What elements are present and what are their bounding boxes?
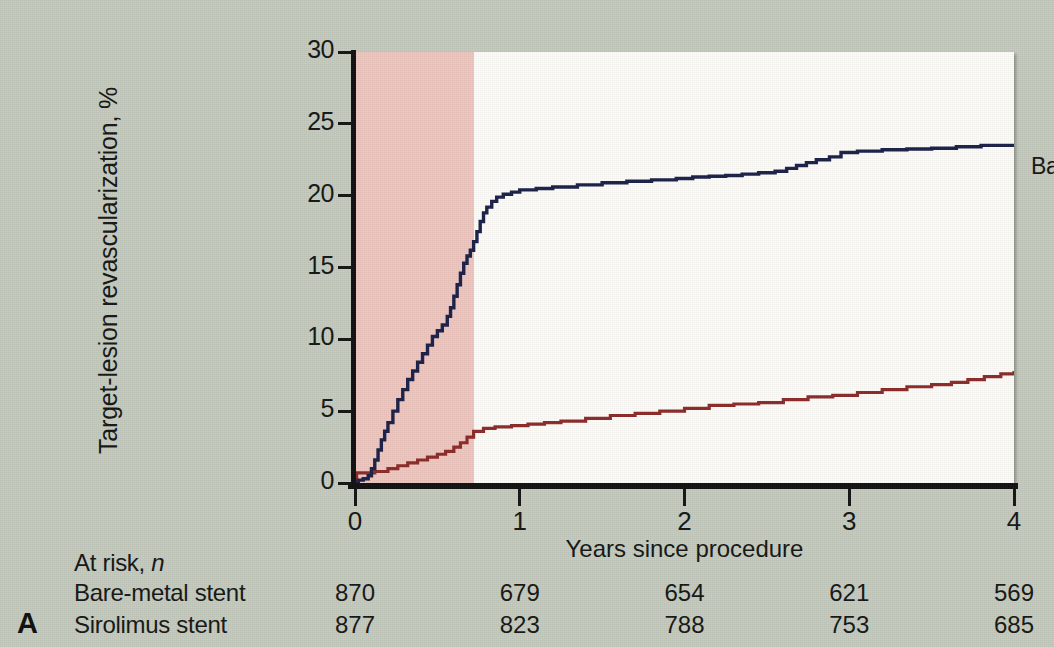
at-risk-heading-italic-n: n (151, 549, 164, 576)
y-tick-25 (338, 122, 351, 125)
curve-sirolimus-stent (355, 371, 1014, 483)
at-risk-value: 654 (645, 579, 725, 607)
survival-curves (355, 52, 1014, 483)
y-tick-30 (338, 51, 351, 54)
y-tick-20 (338, 194, 351, 197)
y-tick-0 (338, 482, 351, 485)
x-tick-label-3: 3 (819, 506, 879, 537)
at-risk-value: 685 (974, 611, 1054, 639)
y-axis-title: Target-lesion revascularization, % (94, 41, 123, 501)
at-risk-row-label-sirolimus-stent: Sirolimus stent (74, 611, 227, 639)
y-tick-10 (338, 338, 351, 341)
x-tick-label-0: 0 (325, 506, 385, 537)
x-tick-label-4: 4 (984, 506, 1044, 537)
at-risk-value: 823 (480, 611, 560, 639)
series-label-bare-metal-stent: Bare-metal stent (23.6%) (1031, 153, 1054, 180)
x-tick-3 (848, 489, 851, 506)
at-risk-value: 621 (809, 579, 889, 607)
kaplan-meier-figure: Bare-metal stent (23.6%) Sirolimus stent… (0, 0, 1054, 647)
y-tick-label-10: 10 (274, 322, 334, 351)
at-risk-value: 788 (645, 611, 725, 639)
at-risk-value: 679 (480, 579, 560, 607)
at-risk-heading: At risk, n (74, 549, 164, 577)
x-tick-0 (354, 489, 357, 506)
at-risk-value: 569 (974, 579, 1054, 607)
at-risk-heading-text: At risk, (74, 549, 151, 576)
x-tick-1 (518, 489, 521, 506)
x-tick-4 (1013, 489, 1016, 506)
y-axis-line (351, 50, 356, 487)
plot-area: Bare-metal stent (23.6%) Sirolimus stent… (355, 52, 1014, 483)
at-risk-table: At risk, n Bare-metal stent Sirolimus st… (0, 548, 1054, 647)
y-tick-label-20: 20 (274, 179, 334, 208)
at-risk-value: 877 (315, 611, 395, 639)
at-risk-value: 870 (315, 579, 395, 607)
y-tick-15 (338, 266, 351, 269)
y-tick-label-30: 30 (274, 35, 334, 64)
at-risk-row-label-bare-metal-stent: Bare-metal stent (74, 579, 245, 607)
x-tick-label-2: 2 (655, 506, 715, 537)
x-tick-label-1: 1 (490, 506, 550, 537)
y-tick-5 (338, 410, 351, 413)
y-tick-label-25: 25 (274, 107, 334, 136)
x-tick-2 (683, 489, 686, 506)
y-tick-label-0: 0 (274, 466, 334, 495)
at-risk-value: 753 (809, 611, 889, 639)
curve-bare-metal-stent (355, 144, 1014, 483)
y-tick-label-5: 5 (274, 394, 334, 423)
y-tick-label-15: 15 (274, 251, 334, 280)
panel-letter: A (17, 607, 38, 640)
